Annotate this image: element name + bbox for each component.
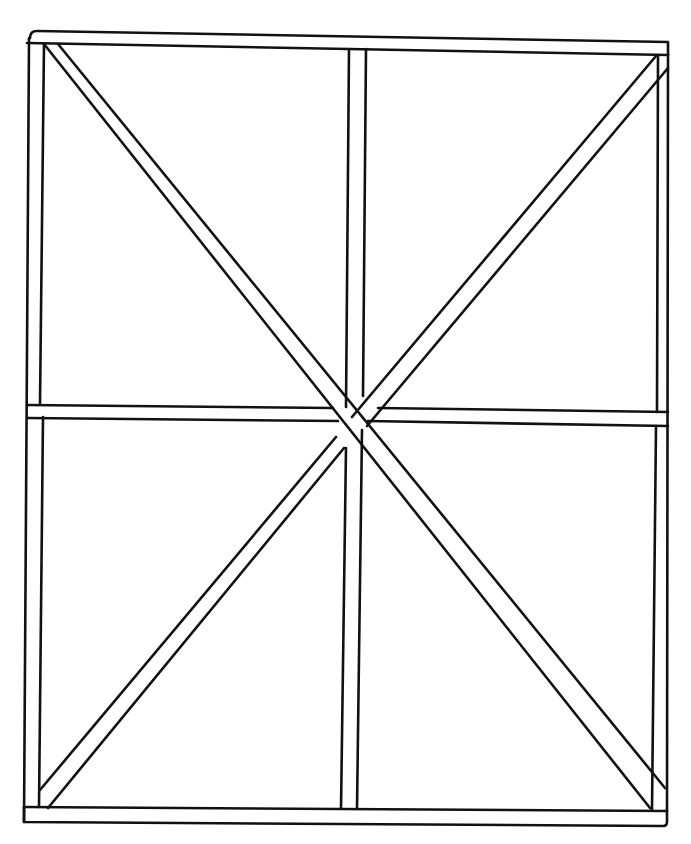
brace-top-right-to-bottom-left (40, 56, 668, 808)
right-stud (652, 55, 668, 811)
center-post (341, 49, 366, 809)
frame-diagram (0, 0, 691, 844)
top-plate (27, 31, 668, 55)
brace-top-left-to-bottom-right (44, 44, 665, 808)
bottom-plate (24, 807, 667, 826)
mid-rail (27, 405, 668, 426)
left-stud (24, 38, 44, 822)
